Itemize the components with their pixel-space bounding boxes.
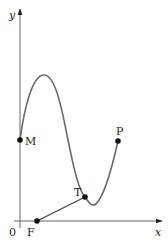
y-axis-label: y — [8, 9, 16, 22]
point-p-label: P — [116, 125, 124, 138]
segment-ft — [37, 197, 85, 221]
point-t — [82, 194, 88, 200]
point-m-label: M — [25, 135, 36, 148]
point-f-label: F — [27, 226, 35, 239]
point-f — [34, 218, 40, 224]
x-axis-label: x — [155, 226, 162, 239]
point-p — [115, 138, 121, 144]
function-graph-diagram: y x 0 M T P F — [0, 0, 168, 248]
point-t-label: T — [74, 186, 82, 199]
origin-label: 0 — [9, 226, 16, 239]
point-m — [17, 137, 23, 143]
